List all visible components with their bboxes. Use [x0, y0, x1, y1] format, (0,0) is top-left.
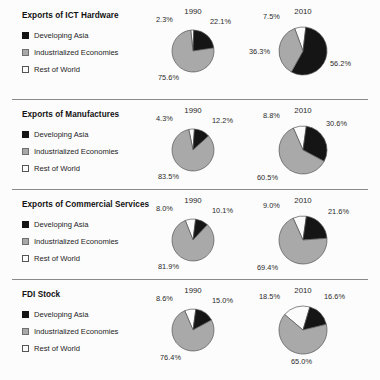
pie-panel: 2010Rest of World 8.8%Developing Asia 30… [228, 99, 378, 189]
pie-data-label: 75.6% [158, 73, 179, 82]
legend-swatch-icon [22, 165, 29, 172]
chart-legend: Developing AsiaIndustrialized EconomiesR… [22, 306, 118, 357]
legend-label: Industrialized Economies [34, 48, 118, 57]
pie-chart: Rest of World 18.5%Developing Asia 16.6%… [228, 279, 378, 369]
pie-panel: 2010Rest of World 9.0%Developing Asia 21… [228, 189, 378, 279]
pie-data-label: 16.6% [324, 292, 345, 301]
chart-legend: Developing AsiaIndustrialized EconomiesR… [22, 126, 118, 177]
legend-item: Developing Asia [22, 126, 118, 143]
pie-data-label: 18.5% [259, 292, 280, 301]
chart-section: Exports of ICT HardwareDeveloping AsiaIn… [0, 0, 380, 90]
legend-swatch-icon [22, 238, 29, 245]
legend-item: Developing Asia [22, 306, 118, 323]
legend-label: Developing Asia [34, 220, 88, 229]
section-title: Exports of ICT Hardware [22, 11, 119, 20]
pie-data-label: 30.6% [326, 119, 347, 128]
legend-label: Developing Asia [34, 310, 88, 319]
legend-label: Rest of World [34, 254, 80, 263]
chart-section: FDI StockDeveloping AsiaIndustrialized E… [0, 279, 380, 369]
legend-swatch-icon [22, 345, 29, 352]
pie-data-label: 4.3% [156, 114, 173, 123]
legend-label: Industrialized Economies [34, 327, 118, 336]
chart-legend: Developing AsiaIndustrialized EconomiesR… [22, 216, 118, 267]
chart-section: Exports of ManufacturesDeveloping AsiaIn… [0, 99, 380, 189]
pie-data-label: 21.6% [328, 207, 349, 216]
pie-data-label: 81.9% [158, 262, 179, 271]
legend-swatch-icon [22, 49, 29, 56]
legend-item: Rest of World [22, 160, 118, 177]
chart-legend: Developing AsiaIndustrialized EconomiesR… [22, 27, 118, 78]
legend-item: Industrialized Economies [22, 233, 118, 250]
legend-swatch-icon [22, 32, 29, 39]
pie-slice: Developing Asia 22.1% [193, 30, 214, 51]
pie-chart-figure: Exports of ICT HardwareDeveloping AsiaIn… [0, 0, 380, 380]
legend-swatch-icon [22, 66, 29, 73]
legend-swatch-icon [22, 221, 29, 228]
pie-slice: Developing Asia 21.6% [303, 216, 327, 240]
section-title: FDI Stock [22, 290, 60, 299]
pie-chart: Rest of World 9.0%Developing Asia 21.6%I… [228, 189, 378, 279]
section-title: Exports of Manufactures [22, 110, 119, 119]
legend-item: Rest of World [22, 340, 118, 357]
legend-swatch-icon [22, 255, 29, 262]
legend-item: Industrialized Economies [22, 323, 118, 340]
pie-panel: 2010Rest of World 18.5%Developing Asia 1… [228, 279, 378, 369]
pie-data-label: 8.6% [156, 294, 173, 303]
pie-data-label: 7.5% [263, 12, 280, 21]
pie-panel: 2010Rest of World 7.5%Developing Asia 56… [228, 0, 378, 90]
pie-data-label: 83.5% [158, 172, 179, 181]
pie-data-label: 69.4% [257, 263, 278, 272]
legend-item: Industrialized Economies [22, 44, 118, 61]
legend-swatch-icon [22, 311, 29, 318]
pie-chart: Rest of World 7.5%Developing Asia 56.2%I… [228, 0, 378, 90]
legend-item: Rest of World [22, 250, 118, 267]
pie-chart: Rest of World 8.8%Developing Asia 30.6%I… [228, 99, 378, 189]
legend-item: Industrialized Economies [22, 143, 118, 160]
pie-data-label: 8.8% [263, 111, 280, 120]
legend-label: Industrialized Economies [34, 237, 118, 246]
legend-item: Rest of World [22, 61, 118, 78]
pie-data-label: 8.0% [156, 204, 173, 213]
pie-data-label: 36.3% [249, 47, 270, 56]
pie-data-label: 9.0% [263, 201, 280, 210]
legend-label: Industrialized Economies [34, 147, 118, 156]
chart-section: Exports of Commercial ServicesDeveloping… [0, 189, 380, 279]
pie-data-label: 60.5% [257, 173, 278, 182]
pie-data-label: 56.2% [330, 59, 351, 68]
pie-data-label: 2.3% [156, 15, 173, 24]
legend-label: Rest of World [34, 65, 80, 74]
legend-label: Rest of World [34, 344, 80, 353]
legend-label: Rest of World [34, 164, 80, 173]
legend-label: Developing Asia [34, 31, 88, 40]
legend-swatch-icon [22, 148, 29, 155]
legend-swatch-icon [22, 328, 29, 335]
legend-swatch-icon [22, 131, 29, 138]
legend-label: Developing Asia [34, 130, 88, 139]
legend-item: Developing Asia [22, 216, 118, 233]
pie-data-label: 65.0% [291, 357, 312, 366]
legend-item: Developing Asia [22, 27, 118, 44]
pie-data-label: 76.4% [160, 353, 181, 362]
